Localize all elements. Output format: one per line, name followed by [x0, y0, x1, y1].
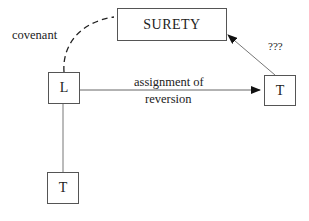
tenant-right-node: T [264, 75, 296, 106]
landlord-node: L [48, 72, 80, 104]
assignment-label-line1: assignment of [134, 75, 204, 90]
covenant-label: covenant [12, 28, 57, 43]
covenant-dashed-curve [64, 17, 114, 72]
unknown-label: ??? [268, 40, 283, 52]
tenant-bottom-node: T [47, 172, 79, 204]
assignment-label-line2: reversion [145, 92, 192, 107]
surety-node: SURETY [117, 8, 227, 41]
